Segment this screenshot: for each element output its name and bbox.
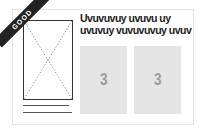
headline: Uvuvuvuy uvuvu uy uvuvuy vuvuvuvuy uvuv [80, 12, 181, 36]
image-placeholder [23, 20, 73, 100]
text-line [23, 112, 72, 113]
panel-number: 3 [100, 70, 108, 90]
headline-line-1: Uvuvuvuy uvuvu uy [80, 12, 181, 24]
text-line [23, 105, 69, 106]
placeholder-cross-icon [24, 21, 72, 99]
panel-2: 3 [134, 46, 181, 114]
panel-number: 3 [154, 70, 162, 90]
headline-line-2: uvuvuy vuvuvuvuy uvuv [80, 24, 181, 36]
panel-1: 3 [80, 46, 127, 114]
